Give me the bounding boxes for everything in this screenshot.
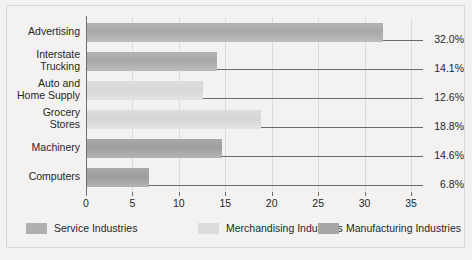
bar xyxy=(86,168,149,187)
category-label: Computers xyxy=(2,171,80,183)
legend-swatch-service xyxy=(26,223,47,234)
category-label: Machinery xyxy=(2,142,80,154)
value-label: 14.6% xyxy=(418,150,464,161)
leader-line xyxy=(383,40,423,41)
category-label: Auto and Home Supply xyxy=(2,78,80,101)
category-label: Advertising xyxy=(2,26,80,38)
bar xyxy=(86,81,203,100)
x-tick-mark xyxy=(86,192,87,196)
value-axis-line xyxy=(86,16,87,194)
gridline xyxy=(411,18,412,192)
x-tick-mark xyxy=(365,192,366,196)
gridline xyxy=(132,18,133,192)
bar xyxy=(86,139,222,158)
legend-item-service[interactable]: Service Industries xyxy=(26,220,137,236)
value-label: 14.1% xyxy=(418,63,464,74)
x-tick-mark xyxy=(272,192,273,196)
x-tick-label: 20 xyxy=(257,197,287,209)
legend-swatch-manufacturing xyxy=(318,223,339,234)
chart-legend: Service IndustriesMerchandising Industri… xyxy=(12,220,460,240)
x-tick-mark xyxy=(179,192,180,196)
value-label: 12.6% xyxy=(418,92,464,103)
value-label: 6.8% xyxy=(418,179,464,190)
leader-line xyxy=(203,98,423,99)
value-labels: 32.0%14.1%12.6%18.8%14.6%6.8% xyxy=(418,0,466,200)
category-axis-labels: AdvertisingInterstate TruckingAuto and H… xyxy=(0,0,80,200)
x-tick-mark xyxy=(132,192,133,196)
legend-label: Manufacturing Industries xyxy=(346,222,461,234)
x-tick-mark xyxy=(318,192,319,196)
leader-line xyxy=(222,156,423,157)
value-label: 32.0% xyxy=(418,34,464,45)
x-tick-mark xyxy=(411,192,412,196)
x-tick-label: 35 xyxy=(396,197,426,209)
leader-line xyxy=(261,127,423,128)
leader-line xyxy=(217,69,423,70)
value-label: 18.8% xyxy=(418,121,464,132)
x-tick-label: 5 xyxy=(117,197,147,209)
x-tick-label: 0 xyxy=(71,197,101,209)
bar xyxy=(86,110,261,129)
x-tick-label: 25 xyxy=(303,197,333,209)
bar xyxy=(86,52,217,71)
bar-chart-figure: AdvertisingInterstate TruckingAuto and H… xyxy=(0,0,472,260)
category-label: Interstate Trucking xyxy=(2,49,80,72)
legend-item-manufacturing[interactable]: Manufacturing Industries xyxy=(318,220,461,236)
x-tick-label: 30 xyxy=(350,197,380,209)
gridline xyxy=(225,18,226,192)
legend-swatch-merchandising xyxy=(198,223,219,234)
category-label: Grocery Stores xyxy=(2,107,80,130)
x-tick-label: 10 xyxy=(164,197,194,209)
x-tick-mark xyxy=(225,192,226,196)
bar xyxy=(86,23,383,42)
gridline xyxy=(179,18,180,192)
gridline xyxy=(318,18,319,192)
x-axis: 05101520253035 xyxy=(86,192,412,208)
gridline xyxy=(272,18,273,192)
x-tick-label: 15 xyxy=(210,197,240,209)
leader-line xyxy=(149,185,423,186)
legend-label: Service Industries xyxy=(54,222,137,234)
gridline xyxy=(365,18,366,192)
plot-area xyxy=(86,18,411,192)
